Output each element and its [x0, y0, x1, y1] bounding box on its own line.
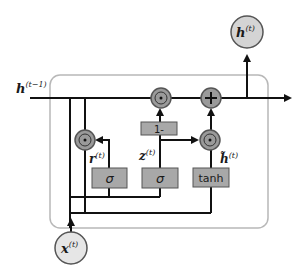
add-node: [201, 88, 221, 108]
dot-icon: [84, 139, 87, 142]
hadamard-reset-node: [75, 130, 95, 150]
dot-icon: [160, 97, 163, 100]
candidate-label: tanh: [199, 172, 224, 185]
hadamard-candidate-node: [200, 130, 220, 150]
update-gate-label: σ: [156, 171, 165, 186]
prev-hidden-label: h(t−1): [16, 80, 47, 96]
gru-diagram: 1- σ σ tanh h(t) x(t) h(t−1) r(t) z(t) h…: [0, 0, 306, 272]
hadamard-top-node: [151, 88, 171, 108]
dot-icon: [209, 139, 212, 142]
one-minus-label: 1-: [154, 124, 164, 135]
reset-gate-label: σ: [105, 171, 114, 186]
